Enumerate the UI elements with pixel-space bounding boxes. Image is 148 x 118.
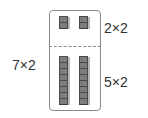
dashed-divider [49, 46, 101, 47]
bottom-group-label: 5×2 [104, 75, 128, 89]
bottom-block-column-1 [59, 56, 68, 105]
bottom-block-column-2 [79, 56, 88, 105]
top-group-label: 2×2 [104, 21, 128, 35]
top-block-column-2 [79, 16, 88, 29]
array-frame [49, 10, 101, 111]
total-label: 7×2 [12, 58, 36, 72]
block-cube [79, 22, 88, 29]
block-cube [79, 98, 88, 105]
block-cube [59, 22, 68, 29]
block-cube [59, 98, 68, 105]
top-block-column-1 [59, 16, 68, 29]
